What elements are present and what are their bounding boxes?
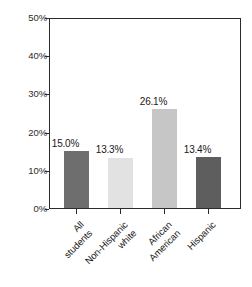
x-tick-mark	[164, 209, 165, 214]
y-tick-label: 20%	[0, 128, 47, 138]
bar-value-label: 15.0%	[42, 138, 89, 149]
plot-area	[49, 18, 241, 209]
y-tick-label: 40%	[0, 51, 47, 61]
bar-value-label: 26.1%	[130, 96, 177, 107]
x-tick-mark	[76, 209, 77, 214]
x-tick-mark	[208, 209, 209, 214]
bar-value-label: 13.3%	[86, 144, 133, 155]
bar-non-hispanic-white	[108, 158, 133, 208]
x-tick-mark	[120, 209, 121, 214]
bar-hispanic	[196, 157, 221, 208]
bar-african-american	[152, 109, 177, 208]
bar-chart: 50% 40% 30% 20% 10% 0% 15.0% 13.3% 26.1%…	[0, 0, 252, 287]
y-tick-label: 0%	[0, 204, 47, 214]
y-tick-mark	[45, 209, 49, 210]
y-tick-label: 10%	[0, 166, 47, 176]
bar-all-students	[64, 151, 89, 208]
y-tick-label: 30%	[0, 89, 47, 99]
y-tick-label: 50%	[0, 13, 47, 23]
bar-value-label: 13.4%	[174, 144, 221, 155]
